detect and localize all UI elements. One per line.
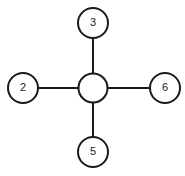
node-right[interactable]: 6 [150, 73, 180, 103]
node-left[interactable]: 2 [8, 73, 38, 103]
node-top[interactable]: 3 [78, 8, 108, 38]
node-bottom[interactable]: 5 [78, 137, 108, 167]
star-graph: 3 2 6 5 [0, 0, 185, 176]
node-center-circle[interactable] [79, 74, 108, 103]
node-bottom-label: 5 [90, 145, 96, 157]
node-top-label: 3 [90, 16, 96, 28]
node-left-label: 2 [20, 81, 26, 93]
node-group: 3 2 6 5 [8, 8, 180, 167]
node-right-label: 6 [162, 81, 168, 93]
diagram-canvas: 3 2 6 5 [0, 0, 185, 176]
node-center[interactable] [79, 74, 108, 103]
